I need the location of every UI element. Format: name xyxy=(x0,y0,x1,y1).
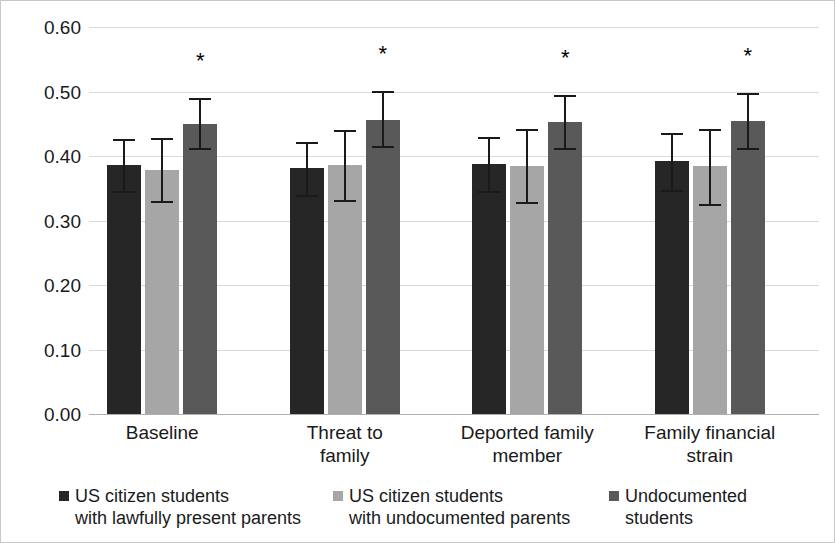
x-axis-baseline xyxy=(89,414,819,415)
y-axis-tick-label: 0.10 xyxy=(11,340,81,359)
legend-label-text: Undocumented xyxy=(625,486,747,506)
y-axis-tick-label: 0.20 xyxy=(11,276,81,295)
category-label-line: Threat to xyxy=(250,421,440,444)
x-axis-category-label: Baseline xyxy=(67,421,257,444)
x-axis-category-label: Threat tofamily xyxy=(250,421,440,467)
legend-label-line1: US citizen students xyxy=(333,485,570,507)
error-bar-cap-lower xyxy=(737,148,759,150)
bar-group: * xyxy=(89,27,819,414)
error-bar-cap-lower xyxy=(699,204,721,206)
legend-item[interactable]: US citizen studentswith lawfully present… xyxy=(59,485,301,529)
y-axis-tick-label: 0.60 xyxy=(11,18,81,37)
legend-label-line2: students xyxy=(609,507,747,529)
chart-legend: US citizen studentswith lawfully present… xyxy=(1,485,835,540)
x-axis-category-labels: BaselineThreat tofamilyDeported familyme… xyxy=(89,421,819,476)
legend-label-text: US citizen students xyxy=(349,486,503,506)
error-bar-cap-upper xyxy=(661,133,683,135)
bar-chart-figure: 0.000.100.200.300.400.500.60 **** Baseli… xyxy=(0,0,835,543)
category-label-line: strain xyxy=(615,444,805,467)
category-label-line: family xyxy=(250,444,440,467)
y-axis-tick-label: 0.50 xyxy=(11,82,81,101)
error-bar-cap-upper xyxy=(699,129,721,131)
legend-swatch-icon xyxy=(59,491,69,501)
legend-item[interactable]: US citizen studentswith undocumented par… xyxy=(333,485,570,529)
error-bar xyxy=(671,133,673,190)
legend-label-line1: Undocumented xyxy=(609,485,747,507)
legend-swatch-icon xyxy=(609,491,619,501)
error-bar xyxy=(709,129,711,204)
x-axis-category-label: Family financialstrain xyxy=(615,421,805,467)
error-bar xyxy=(747,93,749,147)
legend-label-line2: with lawfully present parents xyxy=(59,507,301,529)
legend-label-text: US citizen students xyxy=(75,486,229,506)
y-axis-tick-labels: 0.000.100.200.300.400.500.60 xyxy=(1,27,81,414)
legend-label-line2: with undocumented parents xyxy=(333,507,570,529)
category-label-line: Family financial xyxy=(615,421,805,444)
y-axis-tick-label: 0.30 xyxy=(11,211,81,230)
significance-marker: * xyxy=(743,45,752,67)
bar[interactable] xyxy=(655,161,689,414)
category-label-line: Deported family xyxy=(432,421,622,444)
legend-item[interactable]: Undocumentedstudents xyxy=(609,485,747,529)
error-bar-cap-upper xyxy=(737,93,759,95)
y-axis-tick-label: 0.40 xyxy=(11,147,81,166)
category-label-line: member xyxy=(432,444,622,467)
legend-swatch-icon xyxy=(333,491,343,501)
bar[interactable] xyxy=(731,121,765,414)
error-bar-cap-lower xyxy=(661,190,683,192)
category-label-line: Baseline xyxy=(67,421,257,444)
x-axis-category-label: Deported familymember xyxy=(432,421,622,467)
legend-label-line1: US citizen students xyxy=(59,485,301,507)
plot-area: **** xyxy=(89,27,819,414)
